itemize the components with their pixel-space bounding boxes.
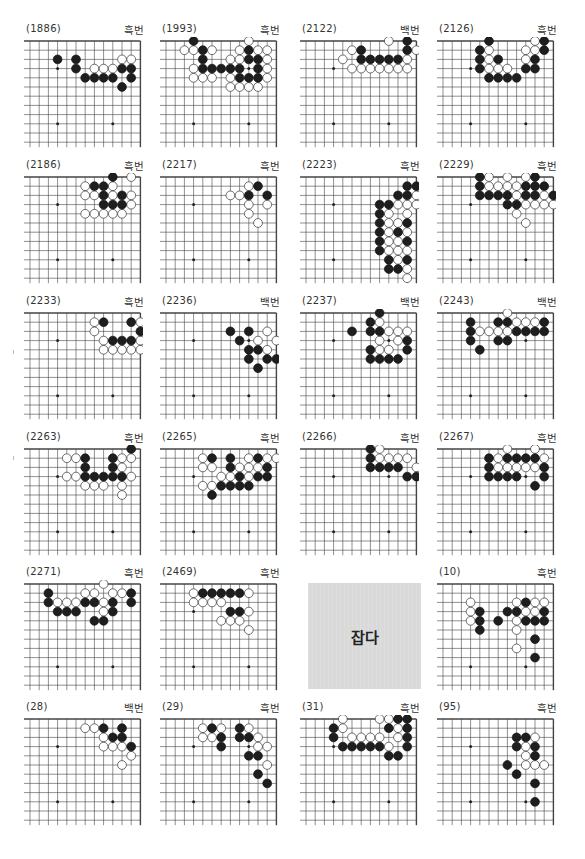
white-stone xyxy=(235,83,244,92)
black-stone xyxy=(244,733,253,742)
white-stone xyxy=(403,200,412,209)
white-stone xyxy=(136,336,143,345)
white-stone xyxy=(99,742,108,751)
white-stone xyxy=(217,616,226,625)
white-stone xyxy=(531,463,540,472)
black-stone xyxy=(366,355,375,364)
white-stone xyxy=(81,724,90,733)
star-point xyxy=(192,339,195,342)
white-stone xyxy=(226,55,235,64)
white-stone xyxy=(357,733,366,742)
white-stone xyxy=(503,182,512,191)
white-stone xyxy=(99,481,108,490)
star-point xyxy=(56,203,59,206)
black-stone xyxy=(475,173,484,181)
white-stone xyxy=(531,200,540,209)
black-stone xyxy=(254,345,263,354)
problem-number: (2265) xyxy=(162,431,197,442)
black-stone xyxy=(412,182,419,191)
black-stone xyxy=(503,336,512,345)
black-stone xyxy=(244,73,253,82)
white-stone xyxy=(485,173,494,181)
white-stone xyxy=(494,454,503,463)
white-stone xyxy=(531,445,540,453)
black-stone xyxy=(254,55,263,64)
black-stone xyxy=(540,607,549,616)
go-board xyxy=(300,715,419,826)
star-point xyxy=(192,203,195,206)
white-stone xyxy=(217,598,226,607)
white-stone xyxy=(375,64,384,73)
star-point xyxy=(332,122,335,125)
black-stone xyxy=(90,182,99,191)
black-stone xyxy=(226,607,235,616)
white-stone xyxy=(375,336,384,345)
white-stone xyxy=(338,55,347,64)
problem-diagram: (2217)흑번 xyxy=(160,159,284,289)
star-point xyxy=(469,394,472,397)
white-stone xyxy=(384,209,393,218)
go-board xyxy=(160,309,279,420)
white-stone xyxy=(375,445,384,453)
go-board xyxy=(437,173,556,284)
star-point xyxy=(247,665,250,668)
go-board xyxy=(24,309,143,420)
white-stone xyxy=(208,73,217,82)
to-play-label: 흑번 xyxy=(537,565,557,580)
black-stone xyxy=(475,626,484,635)
white-stone xyxy=(531,46,540,55)
black-stone xyxy=(485,73,494,82)
black-stone xyxy=(81,472,90,481)
white-stone xyxy=(384,715,393,723)
white-stone xyxy=(254,83,263,92)
white-stone xyxy=(485,182,494,191)
black-stone xyxy=(375,55,384,64)
black-stone xyxy=(475,607,484,616)
white-stone xyxy=(540,454,549,463)
black-stone xyxy=(531,55,540,64)
white-stone xyxy=(72,472,81,481)
star-point xyxy=(56,745,59,748)
black-stone xyxy=(475,191,484,200)
black-stone xyxy=(403,219,412,228)
black-stone xyxy=(235,336,244,345)
white-stone xyxy=(531,733,540,742)
white-stone xyxy=(254,742,263,751)
black-stone xyxy=(394,55,403,64)
black-stone xyxy=(394,228,403,237)
problem-number: (2186) xyxy=(26,159,61,170)
black-stone xyxy=(217,64,226,73)
white-stone xyxy=(244,200,253,209)
black-stone xyxy=(531,751,540,760)
black-stone xyxy=(357,46,366,55)
star-point xyxy=(111,530,114,533)
black-stone xyxy=(485,191,494,200)
white-stone xyxy=(512,616,521,625)
white-stone xyxy=(403,265,412,274)
to-play-label: 백번 xyxy=(400,294,420,309)
black-stone xyxy=(375,228,384,237)
black-stone xyxy=(81,454,90,463)
problem-diagram: (2236)백번 xyxy=(160,295,284,425)
black-stone xyxy=(403,472,412,481)
problem-diagram: (2229)흑번 xyxy=(437,159,561,289)
star-point xyxy=(332,745,335,748)
black-stone xyxy=(226,454,235,463)
black-stone xyxy=(254,64,263,73)
white-stone xyxy=(244,83,253,92)
white-stone xyxy=(263,64,272,73)
white-stone xyxy=(189,64,198,73)
white-stone xyxy=(531,318,540,327)
white-stone xyxy=(244,724,253,733)
white-stone xyxy=(394,200,403,209)
white-stone xyxy=(384,345,393,354)
black-stone xyxy=(235,589,244,598)
white-stone xyxy=(235,616,244,625)
white-stone xyxy=(99,733,108,742)
go-board xyxy=(160,173,279,284)
to-play-label: 흑번 xyxy=(124,22,144,37)
to-play-label: 흑번 xyxy=(400,158,420,173)
white-stone xyxy=(375,715,384,723)
black-stone xyxy=(99,73,108,82)
white-stone xyxy=(384,64,393,73)
